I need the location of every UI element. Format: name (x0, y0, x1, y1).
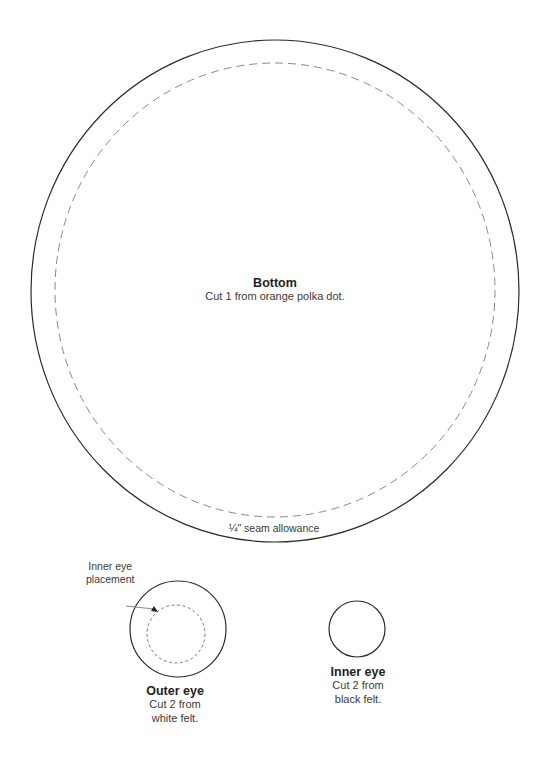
outer-eye-instruction-2: white felt. (146, 712, 204, 726)
callout-line-2: placement (86, 573, 134, 586)
outer-eye-label: Outer eye Cut 2 from white felt. (146, 684, 204, 725)
seam-allowance-label: ¼" seam allowance (229, 522, 320, 534)
inner-eye-title: Inner eye (331, 665, 386, 679)
outer-eye-cut-line (130, 581, 226, 677)
inner-eye-instruction-2: black felt. (331, 693, 386, 707)
inner-eye-cut-line (329, 601, 385, 657)
callout-line-1: Inner eye (86, 560, 134, 573)
inner-eye-placement-callout: Inner eye placement (86, 560, 134, 586)
outer-eye-title: Outer eye (146, 684, 204, 698)
inner-eye-label: Inner eye Cut 2 from black felt. (331, 665, 386, 706)
callout-arrow-line (126, 606, 154, 609)
outer-eye-instruction-1: Cut 2 from (146, 698, 204, 712)
bottom-piece-label: Bottom Cut 1 from orange polka dot. (205, 276, 344, 304)
bottom-title: Bottom (205, 276, 344, 290)
bottom-instruction: Cut 1 from orange polka dot. (205, 290, 344, 304)
inner-eye-placement-line (147, 605, 205, 663)
inner-eye-instruction-1: Cut 2 from (331, 679, 386, 693)
pattern-drawing (0, 0, 546, 764)
